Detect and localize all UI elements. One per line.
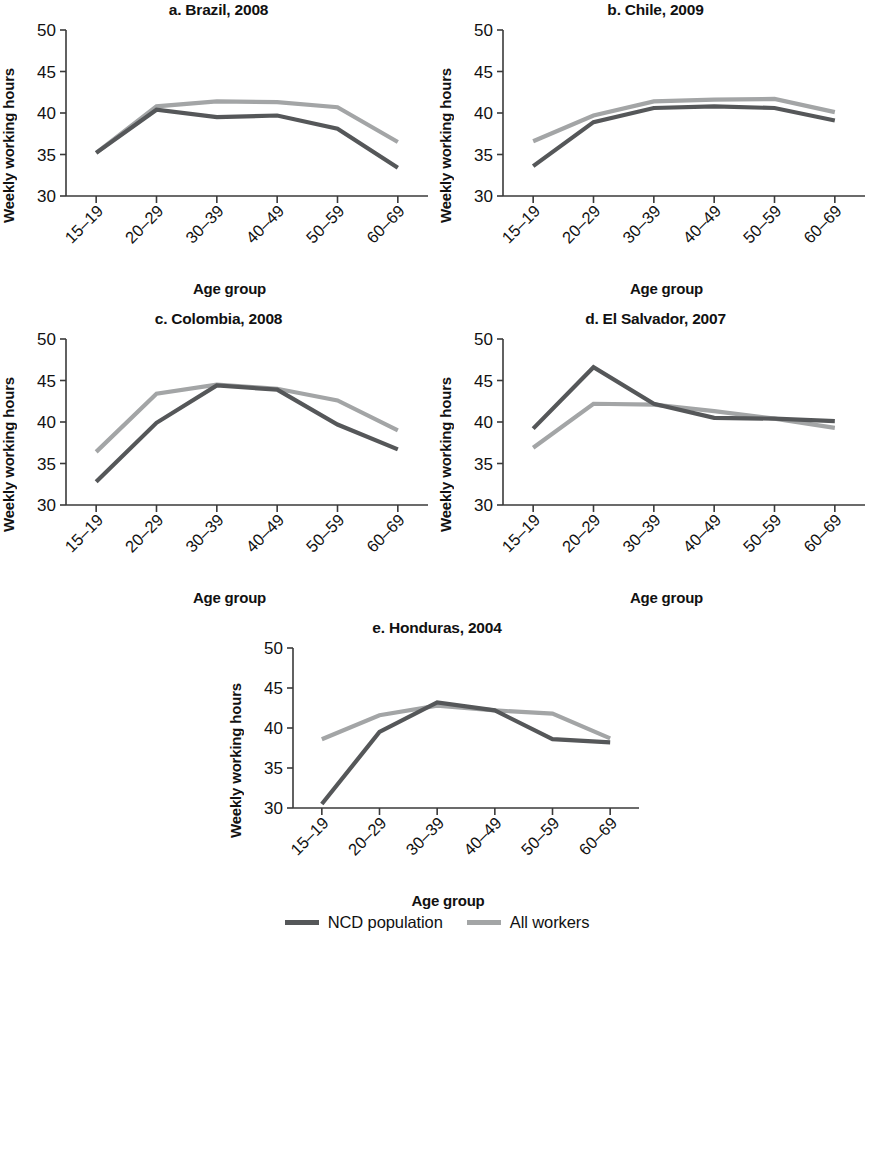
panel-e-title: e. Honduras, 2004 (227, 618, 647, 640)
svg-text:40: 40 (264, 719, 283, 738)
legend-label-ncd-population: NCD population (328, 913, 443, 932)
svg-text:60–69: 60–69 (800, 510, 845, 555)
svg-text:40: 40 (474, 413, 493, 432)
legend-swatch-all-workers (467, 920, 501, 925)
svg-text:30–39: 30–39 (619, 201, 664, 246)
svg-text:20–29: 20–29 (344, 813, 389, 858)
panel-a-x-axis-label: Age group (22, 280, 437, 297)
panel-d-plot-body: Weekly working hours 303540455015–1920–2… (437, 331, 874, 583)
series-line-all-workers (322, 706, 610, 740)
svg-text:45: 45 (37, 63, 56, 82)
panel-d-el-salvador: d. El Salvador, 2007 Weekly working hour… (437, 309, 874, 606)
svg-text:30: 30 (37, 187, 56, 206)
svg-text:40–49: 40–49 (679, 510, 724, 555)
panel-c-plot-body: Weekly working hours 303540455015–1920–2… (0, 331, 437, 583)
panel-c-x-axis-label: Age group (22, 589, 437, 606)
svg-text:45: 45 (474, 63, 493, 82)
svg-text:40–49: 40–49 (679, 201, 724, 246)
panel-d-x-axis-label: Age group (459, 589, 874, 606)
svg-text:15–19: 15–19 (61, 510, 106, 555)
svg-text:50: 50 (474, 331, 493, 349)
panel-d-chart: 303540455015–1920–2930–3940–4950–5960–69 (459, 331, 871, 583)
svg-text:20–29: 20–29 (121, 510, 166, 555)
svg-text:60–69: 60–69 (363, 510, 408, 555)
panel-c-colombia: c. Colombia, 2008 Weekly working hours 3… (0, 309, 437, 606)
panel-e-plot-body: Weekly working hours 303540455015–1920–2… (227, 640, 647, 886)
svg-text:30: 30 (474, 496, 493, 515)
svg-text:50–59: 50–59 (739, 510, 784, 555)
svg-text:50–59: 50–59 (302, 510, 347, 555)
svg-text:40: 40 (37, 104, 56, 123)
svg-text:35: 35 (264, 759, 283, 778)
panel-a-y-axis-label: Weekly working hours (0, 22, 22, 270)
panel-d-y-axis-label: Weekly working hours (437, 331, 459, 579)
svg-text:20–29: 20–29 (558, 201, 603, 246)
series-line-ncd-population (533, 367, 835, 428)
svg-text:30–39: 30–39 (182, 201, 227, 246)
panel-e-chart: 303540455015–1920–2930–3940–4950–5960–69 (249, 640, 645, 886)
svg-text:50–59: 50–59 (302, 201, 347, 246)
legend-swatch-ncd-population (285, 920, 319, 925)
svg-text:50–59: 50–59 (517, 813, 562, 858)
svg-text:20–29: 20–29 (558, 510, 603, 555)
svg-text:60–69: 60–69 (800, 201, 845, 246)
svg-text:45: 45 (37, 372, 56, 391)
panel-a-chart: 303540455015–1920–2930–3940–4950–5960–69 (22, 22, 434, 274)
legend-label-all-workers: All workers (510, 913, 590, 932)
panel-d-title: d. El Salvador, 2007 (437, 309, 874, 331)
series-line-ncd-population (96, 110, 398, 168)
svg-text:20–29: 20–29 (121, 201, 166, 246)
svg-text:30–39: 30–39 (402, 813, 447, 858)
svg-text:50–59: 50–59 (739, 201, 784, 246)
legend-item-ncd-population: NCD population (285, 913, 443, 932)
svg-text:40: 40 (37, 413, 56, 432)
svg-text:15–19: 15–19 (287, 813, 332, 858)
panel-b-x-axis-label: Age group (459, 280, 874, 297)
svg-text:15–19: 15–19 (498, 201, 543, 246)
svg-text:45: 45 (474, 372, 493, 391)
svg-text:30: 30 (264, 799, 283, 818)
panel-e-x-axis-label: Age group (249, 892, 647, 909)
panel-e-honduras: e. Honduras, 2004 Weekly working hours 3… (227, 618, 647, 909)
series-line-ncd-population (533, 106, 835, 166)
svg-text:40–49: 40–49 (460, 813, 505, 858)
panel-b-title: b. Chile, 2009 (437, 0, 874, 22)
series-line-all-workers (96, 385, 398, 452)
panel-b-y-axis-label: Weekly working hours (437, 22, 459, 270)
svg-text:30–39: 30–39 (619, 510, 664, 555)
panel-row-3: e. Honduras, 2004 Weekly working hours 3… (0, 618, 874, 909)
svg-text:35: 35 (474, 146, 493, 165)
svg-text:35: 35 (37, 455, 56, 474)
legend-item-all-workers: All workers (467, 913, 590, 932)
svg-text:30–39: 30–39 (182, 510, 227, 555)
panel-a-plot-body: Weekly working hours 303540455015–1920–2… (0, 22, 437, 274)
svg-text:40–49: 40–49 (242, 510, 287, 555)
panel-a-brazil: a. Brazil, 2008 Weekly working hours 303… (0, 0, 437, 297)
svg-text:50: 50 (264, 640, 283, 658)
svg-text:45: 45 (264, 679, 283, 698)
figure-legend: NCD population All workers (0, 913, 874, 932)
svg-text:35: 35 (37, 146, 56, 165)
panel-b-plot-body: Weekly working hours 303540455015–1920–2… (437, 22, 874, 274)
figure-root: a. Brazil, 2008 Weekly working hours 303… (0, 0, 874, 1173)
svg-text:35: 35 (474, 455, 493, 474)
series-line-all-workers (96, 101, 398, 152)
panel-c-title: c. Colombia, 2008 (0, 309, 437, 331)
series-line-ncd-population (96, 385, 398, 481)
panel-e-y-axis-label: Weekly working hours (227, 640, 249, 882)
panel-c-y-axis-label: Weekly working hours (0, 331, 22, 579)
svg-text:50: 50 (37, 331, 56, 349)
svg-text:60–69: 60–69 (363, 201, 408, 246)
svg-text:40–49: 40–49 (242, 201, 287, 246)
svg-text:30: 30 (474, 187, 493, 206)
svg-text:50: 50 (37, 22, 56, 40)
panel-row-2: c. Colombia, 2008 Weekly working hours 3… (0, 309, 874, 606)
svg-text:60–69: 60–69 (575, 813, 620, 858)
svg-text:50: 50 (474, 22, 493, 40)
panel-row-1: a. Brazil, 2008 Weekly working hours 303… (0, 0, 874, 297)
svg-text:40: 40 (474, 104, 493, 123)
panel-b-chart: 303540455015–1920–2930–3940–4950–5960–69 (459, 22, 871, 274)
svg-text:15–19: 15–19 (61, 201, 106, 246)
panel-c-chart: 303540455015–1920–2930–3940–4950–5960–69 (22, 331, 434, 583)
svg-text:15–19: 15–19 (498, 510, 543, 555)
